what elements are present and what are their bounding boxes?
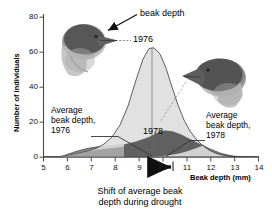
annotation-average-1976-line2: beak depth, (51, 115, 95, 125)
x-tick-marks (44, 157, 259, 161)
y-tick-marks (40, 17, 44, 157)
annotation-average-1976-line3: 1976 (51, 125, 95, 135)
y-tick-label-60: 60 (24, 47, 38, 56)
x-tick-label-9: 9 (134, 163, 145, 172)
finch-head-large-beak-icon (182, 59, 246, 108)
figure-caption-line1: Shift of average beak (60, 186, 220, 197)
finch-head-small-beak-icon (61, 24, 118, 76)
annotation-average-1978-line3: 1978 (206, 130, 250, 140)
annotation-average-1978-line1: Average (206, 110, 250, 120)
y-tick-label-20: 20 (24, 117, 38, 126)
x-axis-label: Beak depth (mm) (190, 173, 251, 182)
x-tick-label-13: 13 (227, 163, 243, 172)
y-tick-label-0: 0 (30, 152, 38, 161)
callout-arrow-beak-depth (108, 15, 137, 31)
annotation-average-1976-line1: Average (51, 105, 95, 115)
y-tick-label-80: 80 (24, 12, 38, 21)
annotation-average-1976: Average beak depth, 1976 (51, 105, 95, 135)
curve-label-1978: 1978 (143, 126, 163, 136)
figure-caption: Shift of average beak depth during droug… (60, 186, 220, 208)
x-tick-label-5: 5 (38, 163, 49, 172)
y-tick-label-40: 40 (24, 82, 38, 91)
figure-caption-line2: depth during drought (60, 197, 220, 208)
x-tick-label-11: 11 (179, 163, 195, 172)
x-tick-label-7: 7 (86, 163, 97, 172)
annotation-average-1978: Average beak depth, 1978 (206, 110, 250, 140)
x-tick-label-6: 6 (62, 163, 73, 172)
beak-depth-distribution-figure: Number of individuals 0 20 40 60 80 5 6 … (0, 0, 272, 222)
y-axis-label: Number of individuals (12, 53, 21, 132)
callout-label-beak-depth: beak depth (140, 8, 185, 18)
x-tick-label-10: 10 (155, 163, 171, 172)
annotation-average-1978-line2: beak depth, (206, 120, 250, 130)
x-tick-label-14: 14 (251, 163, 267, 172)
curve-label-1976: 1976 (133, 34, 153, 44)
x-tick-label-8: 8 (110, 163, 121, 172)
x-tick-label-12: 12 (203, 163, 219, 172)
